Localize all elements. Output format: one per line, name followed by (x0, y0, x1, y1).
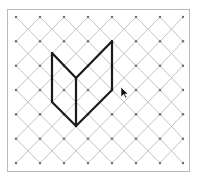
grid-dot (111, 16, 113, 18)
grid-dot (111, 113, 113, 115)
grid-dot (182, 113, 184, 115)
diagram-canvas (0, 0, 199, 181)
grid-dot (159, 138, 161, 140)
grid-dot (182, 138, 184, 140)
grid-dot (39, 16, 41, 18)
grid-dot (87, 138, 89, 140)
grid-dot (111, 162, 113, 164)
grid-dot (159, 40, 161, 42)
grid-dot (63, 138, 65, 140)
grid-dot (159, 65, 161, 67)
grid-dot (182, 40, 184, 42)
grid-dot (182, 162, 184, 164)
grid-dot (39, 89, 41, 91)
grid-dot (15, 16, 17, 18)
grid-dot (63, 40, 65, 42)
grid-dot (63, 89, 65, 91)
grid-dot (135, 162, 137, 164)
diagram-frame (8, 10, 190, 172)
grid-dot (135, 16, 137, 18)
grid-dot (15, 40, 17, 42)
grid-dot (159, 113, 161, 115)
grid-dot (182, 89, 184, 91)
grid-dot (15, 113, 17, 115)
grid-dot (135, 89, 137, 91)
grid-dot (87, 40, 89, 42)
grid-dot (135, 138, 137, 140)
grid-dot (63, 16, 65, 18)
grid-dot (135, 65, 137, 67)
grid-dot (39, 40, 41, 42)
grid-dot (159, 162, 161, 164)
grid-dot (15, 89, 17, 91)
grid-dot (87, 162, 89, 164)
grid-dot (135, 113, 137, 115)
grid-dot (135, 40, 137, 42)
grid-dot (39, 138, 41, 140)
grid-dot (159, 16, 161, 18)
grid-dot (39, 162, 41, 164)
grid-dot (159, 89, 161, 91)
grid-dot (111, 138, 113, 140)
grid-dot (15, 65, 17, 67)
grid-dot (182, 65, 184, 67)
grid-dot (15, 162, 17, 164)
grid-dot (39, 113, 41, 115)
grid-dot (63, 162, 65, 164)
grid-dot (39, 65, 41, 67)
grid-dot (87, 16, 89, 18)
grid-dot (15, 138, 17, 140)
grid-dot (182, 16, 184, 18)
grid-dot (87, 89, 89, 91)
